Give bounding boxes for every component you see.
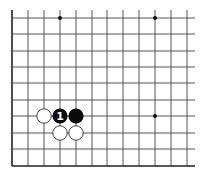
- white-stone[interactable]: [37, 109, 51, 123]
- white-stone[interactable]: [69, 126, 83, 140]
- black-stone-icon: [68, 108, 83, 123]
- go-board[interactable]: 1: [0, 0, 203, 177]
- board-grid: [12, 10, 195, 166]
- white-stone[interactable]: [53, 126, 67, 140]
- star-point-icon: [153, 114, 157, 118]
- black-stone[interactable]: [68, 108, 83, 123]
- white-stone-icon: [69, 126, 83, 140]
- star-point-icon: [58, 16, 62, 20]
- move-number-marker: 1: [56, 110, 64, 123]
- black-stone[interactable]: 1: [52, 108, 67, 123]
- star-point-icon: [153, 16, 157, 20]
- white-stone-icon: [37, 109, 51, 123]
- white-stone-icon: [53, 126, 67, 140]
